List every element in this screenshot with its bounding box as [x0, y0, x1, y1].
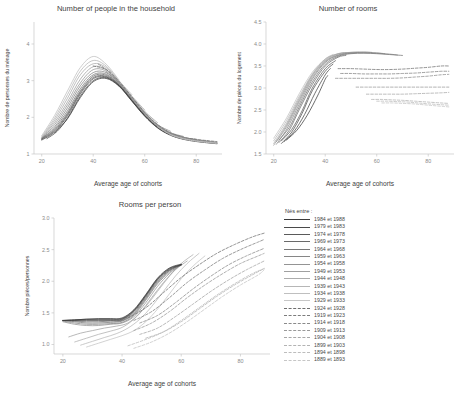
y-axis-label: Nombre pièces/personnes [24, 255, 30, 316]
y-tick-label: 1.5 [254, 151, 262, 157]
legend-item[interactable]: 1969 et 1973 [284, 238, 459, 245]
series-line [81, 253, 199, 345]
legend-line-swatch [284, 271, 310, 272]
x-axis-label: Average age of cohorts [94, 180, 163, 188]
series-line [338, 66, 449, 70]
y-tick-label: 4 [27, 41, 30, 47]
legend-item[interactable]: 1889 et 1893 [284, 356, 459, 363]
legend-item[interactable]: 1954 et 1958 [284, 260, 459, 267]
legend-item[interactable]: 1904 et 1908 [284, 334, 459, 341]
legend-item[interactable]: 1939 et 1943 [284, 283, 459, 290]
series-line [134, 240, 264, 321]
y-tick-label: 3 [27, 78, 30, 84]
y-tick-label: 4.5 [254, 19, 262, 25]
legend-item[interactable]: 1914 et 1918 [284, 319, 459, 326]
y-axis-label: Nombre de personnes du ménage [4, 49, 10, 128]
chart-rooms-per-person: Rooms per person1.01.52.02.53.020406080A… [20, 196, 280, 396]
legend-line-swatch [284, 249, 310, 250]
chart-title: Number of people in the household [57, 4, 175, 13]
legend-item-label: 1929 et 1933 [314, 297, 345, 304]
legend-item[interactable]: 1964 et 1968 [284, 246, 459, 253]
x-axis-label: Average age of cohorts [128, 380, 197, 388]
legend-item-label: 1979 et 1983 [314, 223, 345, 230]
legend-item-label: 1944 et 1948 [314, 275, 345, 282]
legend-item[interactable]: 1909 et 1913 [284, 327, 459, 334]
legend-item[interactable]: 1949 et 1953 [284, 268, 459, 275]
household-plot-svg: Number of people in the household1234204… [0, 0, 232, 196]
y-tick-label: 3.0 [42, 215, 50, 221]
series-line [336, 74, 449, 78]
legend-line-swatch [284, 345, 310, 346]
legend-item-label: 1899 et 1903 [314, 342, 345, 349]
legend-line-swatch [284, 323, 310, 324]
legend-item[interactable]: 1984 et 1988 [284, 216, 459, 223]
y-tick-label: 1.0 [42, 341, 50, 347]
legend-item[interactable]: 1919 et 1923 [284, 312, 459, 319]
y-tick-label: 3.5 [254, 63, 262, 69]
y-axis-label: Nombre de pièces du logement [236, 51, 242, 124]
legend-item[interactable]: 1894 et 1898 [284, 349, 459, 356]
legend-item[interactable]: 1959 et 1963 [284, 253, 459, 260]
legend-line-swatch [284, 337, 310, 338]
legend-line-swatch [284, 352, 310, 353]
series-line [128, 233, 264, 318]
y-tick-label: 2.5 [42, 247, 50, 253]
y-tick-label: 2.5 [254, 107, 262, 113]
y-tick-label: 2.0 [42, 278, 50, 284]
legend-cohorts: Nés entre : 1984 et 19881979 et 19831974… [284, 208, 459, 358]
y-tick-label: 3.0 [254, 85, 262, 91]
legend-item[interactable]: 1899 et 1903 [284, 342, 459, 349]
x-tick-label: 80 [237, 358, 243, 364]
series-line [42, 74, 209, 141]
x-tick-label: 40 [322, 158, 328, 164]
legend-line-swatch [284, 293, 310, 294]
chart-axis-lines [34, 22, 222, 154]
chart-title: Number of rooms [319, 4, 378, 13]
legend-line-swatch [284, 308, 310, 309]
legend-item-label: 1914 et 1918 [314, 319, 345, 326]
legend-item[interactable]: 1929 et 1933 [284, 297, 459, 304]
legend-line-swatch [284, 219, 310, 220]
legend-item-label: 1964 et 1968 [314, 246, 345, 253]
x-axis-label: Average age of cohorts [326, 180, 395, 188]
series-line [87, 256, 205, 347]
legend-item-label: 1924 et 1928 [314, 305, 345, 312]
chart-title: Rooms per person [119, 200, 181, 209]
legend-line-swatch [284, 286, 310, 287]
legend-item-label: 1934 et 1938 [314, 290, 345, 297]
x-tick-label: 20 [39, 158, 45, 164]
x-tick-label: 60 [142, 158, 148, 164]
series-group [274, 52, 449, 145]
legend-item[interactable]: 1934 et 1938 [284, 290, 459, 297]
series-group [63, 233, 264, 348]
series-line [281, 61, 335, 141]
legend-title: Nés entre : [284, 208, 459, 214]
legend-line-swatch [284, 315, 310, 316]
x-tick-label: 40 [90, 158, 96, 164]
legend-line-swatch [284, 330, 310, 331]
y-tick-label: 2.0 [254, 129, 262, 135]
series-line [106, 72, 217, 142]
legend-item-label: 1954 et 1958 [314, 260, 345, 267]
legend-line-swatch [284, 360, 310, 361]
legend-item-label: 1974 et 1978 [314, 231, 345, 238]
y-tick-label: 1.5 [42, 310, 50, 316]
roomsper-plot-svg: Rooms per person1.01.52.02.53.020406080A… [20, 196, 280, 396]
legend-item-label: 1889 et 1893 [314, 356, 345, 363]
legend-item-label: 1894 et 1898 [314, 349, 345, 356]
legend-item[interactable]: 1974 et 1978 [284, 231, 459, 238]
legend-line-swatch [284, 256, 310, 257]
series-group [42, 56, 217, 143]
legend-item-label: 1959 et 1963 [314, 253, 345, 260]
legend-line-swatch [284, 264, 310, 265]
legend-item[interactable]: 1944 et 1948 [284, 275, 459, 282]
legend-item[interactable]: 1979 et 1983 [284, 223, 459, 230]
x-tick-label: 80 [193, 158, 199, 164]
legend-line-swatch [284, 234, 310, 235]
legend-line-swatch [284, 227, 310, 228]
x-tick-label: 80 [425, 158, 431, 164]
legend-item[interactable]: 1924 et 1928 [284, 305, 459, 312]
legend-line-swatch [284, 300, 310, 301]
legend-line-swatch [284, 241, 310, 242]
legend-rows: 1984 et 19881979 et 19831974 et 19781969… [284, 216, 459, 364]
